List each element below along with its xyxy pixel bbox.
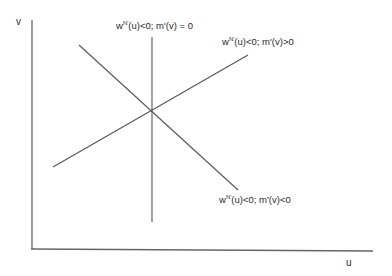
label-upward-curve: wN'(u)<0; m'(v)>0 <box>222 36 294 47</box>
curve-downward <box>79 45 238 190</box>
label-vertical-curve: wN'(u)<0; m'(v) = 0 <box>116 20 193 31</box>
diagram-canvas <box>0 0 392 276</box>
x-axis-label: u <box>346 257 352 268</box>
y-axis-label: v <box>16 16 21 27</box>
curve-upward <box>53 55 248 167</box>
label-downward-curve: wN'(u)<0; m'(v)<0 <box>219 194 291 205</box>
x-axis <box>31 249 373 251</box>
